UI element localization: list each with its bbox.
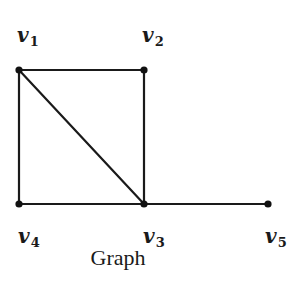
vertex-v4: [15, 200, 22, 207]
vertex-label-v3: v3: [143, 224, 165, 250]
vertex-v2: [140, 66, 147, 73]
edge-v1-v3: [19, 70, 144, 204]
graph-diagram: v1v2v3v4v5 Graph: [0, 0, 295, 293]
vertex-label-v2: v2: [142, 23, 164, 49]
diagram-caption: Graph: [91, 245, 146, 270]
vertex-v5: [264, 200, 271, 207]
vertex-v1: [15, 66, 22, 73]
vertex-v3: [140, 200, 147, 207]
vertex-label-v5: v5: [265, 224, 287, 250]
vertex-labels-group: v1v2v3v4v5: [17, 23, 287, 250]
edges-group: [19, 70, 268, 204]
vertex-label-v4: v4: [18, 224, 40, 250]
vertex-label-v1: v1: [17, 23, 39, 49]
